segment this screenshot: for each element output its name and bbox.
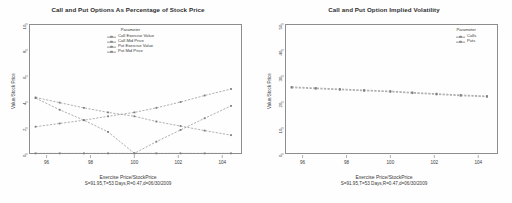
- series-point: [35, 97, 37, 99]
- series-point: [107, 112, 109, 114]
- series-line: [36, 98, 231, 153]
- series-point: [134, 112, 136, 114]
- series-point: [155, 121, 157, 123]
- x-tick-label: 100: [124, 160, 144, 165]
- chart-subtitle: S=91.95,T=53 Days,R=0.47,d=06/30/2009: [0, 181, 256, 186]
- series-point: [230, 134, 232, 136]
- chart-panel-implied-volatility: Call and Put Option Implied Volatility V…: [256, 0, 512, 203]
- x-tick-label: 102: [168, 160, 188, 165]
- y-tick-label: 0: [278, 154, 283, 163]
- series-point: [390, 91, 392, 93]
- legend-marker-icon: [456, 35, 465, 39]
- legend-marker-icon: [107, 35, 116, 39]
- series-point: [436, 94, 438, 96]
- series-point: [204, 117, 206, 119]
- y-axis-label: Value/Stock Price: [267, 73, 272, 109]
- series-point: [35, 126, 37, 128]
- series-point: [230, 152, 232, 154]
- chart-legend: ParameterCallsPuts: [456, 27, 476, 44]
- series-point: [59, 123, 61, 125]
- series-point: [204, 130, 206, 132]
- legend-item-label: Put Mid Price: [118, 48, 143, 55]
- series-point: [180, 152, 182, 154]
- series-point: [59, 109, 61, 111]
- figure-container: Call and Put Options As Percentage of St…: [0, 0, 512, 203]
- y-tick-label: 10: [22, 24, 27, 33]
- y-tick-label: 8: [22, 50, 27, 59]
- series-point: [107, 115, 109, 117]
- series-point: [204, 152, 206, 154]
- series-point: [230, 105, 232, 107]
- series-point: [107, 152, 109, 154]
- series-point: [230, 88, 232, 90]
- y-tick-label: 30: [278, 76, 283, 85]
- y-tick-label: 6: [22, 76, 27, 85]
- series-point: [155, 107, 157, 109]
- legend-item[interactable]: Puts: [456, 39, 476, 44]
- y-tick-label: 10: [278, 128, 283, 137]
- series-point: [291, 87, 293, 89]
- x-tick-label: 104: [212, 160, 232, 165]
- x-tick-label: 102: [424, 160, 444, 165]
- legend-marker-icon: [107, 50, 116, 54]
- y-tick-label: 2: [22, 128, 27, 137]
- chart-legend: ParameterCall Exercise ValueCall Mid Pri…: [107, 27, 154, 54]
- series-line: [36, 97, 231, 135]
- series-point: [107, 131, 109, 133]
- legend-marker-icon: [107, 40, 116, 44]
- series-point: [134, 152, 136, 154]
- series-point: [83, 119, 85, 121]
- series-point: [35, 152, 37, 154]
- x-tick-label: 96: [37, 160, 57, 165]
- series-point: [83, 107, 85, 109]
- x-axis-label: Exercise Price/StockPrice: [0, 174, 256, 180]
- series-point: [180, 101, 182, 103]
- series-point: [460, 95, 462, 97]
- legend-item-label: Puts: [467, 38, 475, 45]
- x-tick-label: 98: [336, 160, 356, 165]
- x-tick-label: 100: [380, 160, 400, 165]
- y-tick-label: 4: [22, 102, 27, 111]
- y-tick-label: 40: [278, 50, 283, 59]
- series-point: [155, 152, 157, 154]
- series-point: [363, 90, 365, 92]
- series-point: [134, 115, 136, 117]
- y-tick-label: 20: [278, 102, 283, 111]
- series-point: [411, 92, 413, 94]
- series-point: [59, 102, 61, 104]
- series-point: [204, 95, 206, 97]
- series-point: [83, 152, 85, 154]
- series-line: [36, 106, 231, 153]
- series-point: [155, 141, 157, 143]
- series-point: [59, 152, 61, 154]
- y-tick-label: 50: [278, 24, 283, 33]
- legend-marker-icon: [456, 40, 465, 44]
- series-point: [339, 89, 341, 91]
- series-line: [292, 88, 487, 97]
- x-tick-label: 98: [80, 160, 100, 165]
- x-tick-label: 104: [468, 160, 488, 165]
- series-point: [180, 129, 182, 131]
- y-axis-label: Value/Stock Price: [11, 73, 16, 109]
- legend-marker-icon: [107, 45, 116, 49]
- x-axis-label: Exercise Price/StockPrice: [256, 174, 512, 180]
- chart-subtitle: S=91.95,T=53 Days,R=0.47,d=06/30/2009: [256, 181, 512, 186]
- legend-item[interactable]: Put Mid Price: [107, 49, 154, 54]
- series-point: [315, 88, 317, 90]
- x-tick-label: 96: [293, 160, 313, 165]
- series-line: [36, 89, 231, 127]
- y-tick-label: 0: [22, 154, 27, 163]
- series-point: [180, 125, 182, 127]
- series-point: [486, 96, 488, 98]
- chart-panel-options-percentage: Call and Put Options As Percentage of St…: [0, 0, 256, 203]
